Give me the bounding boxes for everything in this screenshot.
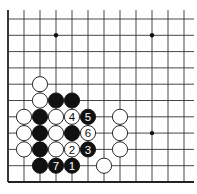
white-stone-icon <box>48 109 63 124</box>
white-stone-icon <box>96 158 111 173</box>
white-stone-icon <box>16 109 31 124</box>
white-stone <box>32 93 47 108</box>
black-stone: 3 <box>80 142 95 157</box>
white-stone-icon <box>112 109 127 124</box>
black-stone <box>32 109 47 124</box>
white-stone <box>16 142 31 157</box>
white-stone <box>16 126 31 141</box>
black-stone: 5 <box>80 109 95 124</box>
black-stone: 1 <box>64 158 79 173</box>
black-stone <box>32 158 47 173</box>
white-stone-icon <box>32 77 47 92</box>
move-number-label: 1 <box>69 160 75 172</box>
white-stone <box>32 77 47 92</box>
white-stone-icon <box>32 93 47 108</box>
white-stone <box>48 126 63 141</box>
black-stone <box>32 142 47 157</box>
white-stone-icon <box>48 126 63 141</box>
white-stone <box>48 142 63 157</box>
white-stone <box>112 142 127 157</box>
black-stone-icon <box>64 126 79 141</box>
white-stone-icon <box>112 142 127 157</box>
black-stone-icon <box>32 158 47 173</box>
star-point-icon <box>150 131 154 135</box>
white-stone: 2 <box>64 142 79 157</box>
white-stone <box>16 109 31 124</box>
star-point-icon <box>150 33 154 37</box>
white-stone <box>96 158 111 173</box>
black-stone-icon <box>48 93 63 108</box>
black-stone <box>48 93 63 108</box>
white-stone <box>112 126 127 141</box>
move-number-label: 5 <box>85 111 91 123</box>
black-stone-icon <box>32 126 47 141</box>
black-stone <box>32 126 47 141</box>
black-stone <box>64 126 79 141</box>
white-stone-icon <box>16 126 31 141</box>
white-stone-icon <box>112 126 127 141</box>
move-number-label: 4 <box>69 111 76 123</box>
black-stone-icon <box>64 93 79 108</box>
star-point-icon <box>54 33 58 37</box>
white-stone: 4 <box>64 109 79 124</box>
white-stone <box>112 109 127 124</box>
black-stone-icon <box>32 109 47 124</box>
move-number-label: 3 <box>85 144 91 156</box>
black-stone-icon <box>32 142 47 157</box>
white-stone-icon <box>48 142 63 157</box>
move-number-label: 6 <box>85 127 91 139</box>
white-stone: 6 <box>80 126 95 141</box>
go-board-diagram: 4562371 <box>0 0 197 194</box>
move-number-label: 2 <box>69 144 75 156</box>
white-stone <box>48 109 63 124</box>
move-number-label: 7 <box>53 160 59 172</box>
black-stone: 7 <box>48 158 63 173</box>
white-stone-icon <box>16 142 31 157</box>
black-stone <box>64 93 79 108</box>
